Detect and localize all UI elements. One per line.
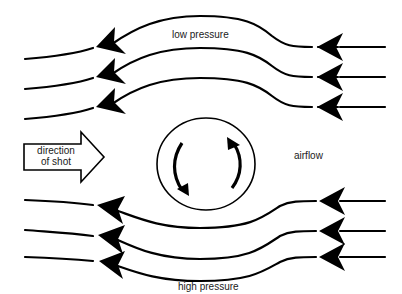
arrowhead-icon — [98, 225, 125, 254]
low-pressure-label: low pressure — [172, 29, 229, 40]
airflow-label: airflow — [294, 150, 323, 161]
bottom-streamlines — [25, 200, 385, 281]
arrowhead-icon — [99, 251, 125, 279]
rotation-arrow-right — [232, 144, 240, 188]
arrowhead-icon — [96, 88, 126, 114]
ball — [157, 118, 255, 210]
arrowhead-icon — [96, 58, 126, 84]
shot-label-line2: of shot — [34, 156, 78, 167]
arrowhead-icon — [97, 196, 125, 224]
shot-label-line1: direction — [34, 145, 78, 156]
direction-of-shot-label: direction of shot — [34, 145, 78, 167]
rotation-arrow-left — [175, 143, 183, 190]
high-pressure-label: high pressure — [178, 281, 239, 292]
arrowhead-icon — [96, 27, 126, 54]
